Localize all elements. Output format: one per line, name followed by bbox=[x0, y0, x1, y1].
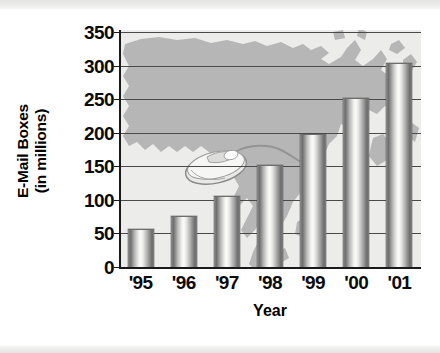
x-axis-tick-label: '97 bbox=[205, 272, 248, 294]
bar-99 bbox=[300, 134, 326, 267]
bar-97 bbox=[214, 196, 240, 268]
scan-artifact-bottom bbox=[0, 345, 440, 353]
y-axis-tick-label: 300 bbox=[58, 57, 114, 76]
bar-slot bbox=[248, 30, 291, 267]
y-axis-tick-label: 350 bbox=[58, 23, 114, 42]
y-axis-tick-label: 150 bbox=[58, 157, 114, 176]
bar-slot bbox=[335, 30, 378, 267]
plot-area bbox=[119, 30, 421, 269]
bar-series bbox=[119, 30, 421, 267]
bar-00 bbox=[343, 98, 369, 267]
x-axis-tick-label: '99 bbox=[292, 272, 335, 294]
bar-98 bbox=[257, 165, 283, 267]
bar-slot bbox=[205, 30, 248, 267]
y-axis-title: E-Mail Boxes (in millions) bbox=[4, 38, 60, 263]
y-axis-title-line1: E-Mail Boxes bbox=[14, 103, 31, 197]
y-axis-line bbox=[119, 30, 121, 269]
y-axis-title-line2: (in millions) bbox=[32, 103, 50, 197]
x-axis-tick-label: '98 bbox=[248, 272, 291, 294]
x-axis-tick-label: '00 bbox=[335, 272, 378, 294]
bar-slot bbox=[119, 30, 162, 267]
x-axis-tick-label: '95 bbox=[119, 272, 162, 294]
y-axis-tick-label: 250 bbox=[58, 90, 114, 109]
bar-chart-figure: E-Mail Boxes (in millions) 3503002502001… bbox=[0, 0, 440, 353]
bar-slot bbox=[292, 30, 335, 267]
y-axis-tick-label: 0 bbox=[58, 258, 114, 277]
x-axis-tick-label: '96 bbox=[162, 272, 205, 294]
bar-slot bbox=[162, 30, 205, 267]
bar-95 bbox=[128, 229, 154, 267]
y-axis-tick-label: 100 bbox=[58, 191, 114, 210]
x-axis-title: Year bbox=[119, 302, 421, 320]
bar-01 bbox=[386, 63, 412, 267]
bar-slot bbox=[378, 30, 421, 267]
x-axis-tick-labels: '95'96'97'98'99'00'01 bbox=[119, 272, 421, 298]
y-axis-tick-labels: 350300250200150100500 bbox=[56, 30, 114, 269]
y-axis-tick-label: 200 bbox=[58, 124, 114, 143]
x-axis-line bbox=[119, 267, 421, 269]
bar-96 bbox=[171, 216, 197, 267]
x-axis-tick-label: '01 bbox=[378, 272, 421, 294]
y-axis-tick-label: 50 bbox=[58, 224, 114, 243]
